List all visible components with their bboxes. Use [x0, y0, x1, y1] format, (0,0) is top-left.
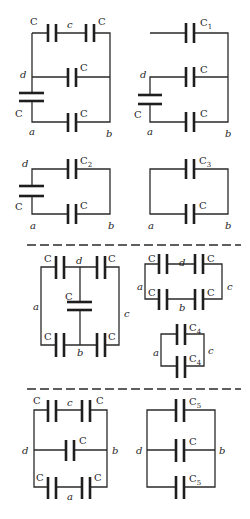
- node-label: b: [108, 220, 114, 231]
- node-label: a: [148, 220, 154, 231]
- node-label: b: [106, 128, 112, 139]
- cap-label: C: [80, 200, 88, 211]
- circuit-8: C c C d C b C a C: [22, 395, 118, 502]
- circuit-4: C3 C a b: [148, 155, 231, 231]
- node-label: d: [22, 445, 28, 456]
- node-label: b: [77, 347, 83, 358]
- cap-label: C: [15, 201, 23, 212]
- cap-label: C: [207, 287, 215, 298]
- cap-label: C: [200, 64, 208, 75]
- cap-label: C4: [189, 353, 202, 367]
- capacitor-network-diagram: C c C C d C C a b C1 d C C C a b d: [0, 0, 250, 519]
- cap-label: C: [134, 109, 142, 120]
- cap-label: C: [207, 253, 215, 264]
- circuit-1: C c C C d C C a b: [15, 16, 112, 139]
- cap-label: C: [33, 395, 41, 406]
- node-label: d: [22, 158, 28, 169]
- cap-label: C: [80, 108, 88, 119]
- cap-label: C5: [189, 396, 201, 410]
- cap-label: C: [44, 253, 52, 264]
- cap-label: C: [65, 291, 73, 302]
- cap-label: C: [96, 395, 104, 406]
- node-label: d: [20, 69, 26, 80]
- cap-label: C: [98, 16, 106, 27]
- cap-label: C1: [200, 17, 212, 31]
- circuit-5: C d C C a c C b C: [33, 253, 130, 358]
- circuit-9: C5 d C b C5: [136, 396, 225, 499]
- node-label: d: [76, 255, 82, 266]
- cap-label: C: [94, 472, 102, 483]
- node-label: a: [67, 491, 73, 502]
- node-label: a: [33, 301, 39, 312]
- node-label: c: [67, 19, 73, 30]
- cap-label: C3: [199, 155, 211, 169]
- cap-label: C: [148, 253, 156, 264]
- cap-label: C: [199, 200, 207, 211]
- cap-label: C5: [189, 473, 201, 487]
- node-label: d: [136, 445, 142, 456]
- node-label: b: [225, 128, 231, 139]
- circuit-3: d C2 C C a b: [15, 155, 114, 231]
- node-label: a: [30, 220, 36, 231]
- node-label: b: [219, 445, 225, 456]
- node-label: a: [137, 281, 143, 292]
- node-label: b: [225, 220, 231, 231]
- cap-label: C2: [80, 155, 92, 169]
- cap-label: C: [148, 287, 156, 298]
- cap-label: C: [200, 108, 208, 119]
- cap-label: C: [79, 435, 87, 446]
- node-label: c: [227, 281, 233, 292]
- node-label: b: [179, 302, 185, 313]
- circuit-7: C4 C4 a c: [153, 322, 214, 378]
- node-label: c: [124, 308, 130, 319]
- node-label: a: [153, 347, 159, 358]
- node-label: d: [140, 69, 146, 80]
- cap-label: C: [36, 472, 44, 483]
- node-label: c: [67, 397, 73, 408]
- circuit-6: C d C a c C b C: [137, 253, 233, 313]
- cap-label: C: [30, 16, 38, 27]
- cap-label: C: [44, 331, 52, 342]
- cap-label: C: [15, 108, 23, 119]
- cap-label: C: [108, 253, 116, 264]
- node-label: a: [29, 126, 35, 137]
- node-label: b: [112, 445, 118, 456]
- cap-label: C: [80, 62, 88, 73]
- node-label: c: [208, 345, 214, 356]
- cap-label: C: [108, 331, 116, 342]
- circuit-2: C1 d C C C a b: [134, 17, 231, 139]
- node-label: a: [147, 126, 153, 137]
- node-label: d: [179, 257, 185, 268]
- cap-label: C: [189, 436, 197, 447]
